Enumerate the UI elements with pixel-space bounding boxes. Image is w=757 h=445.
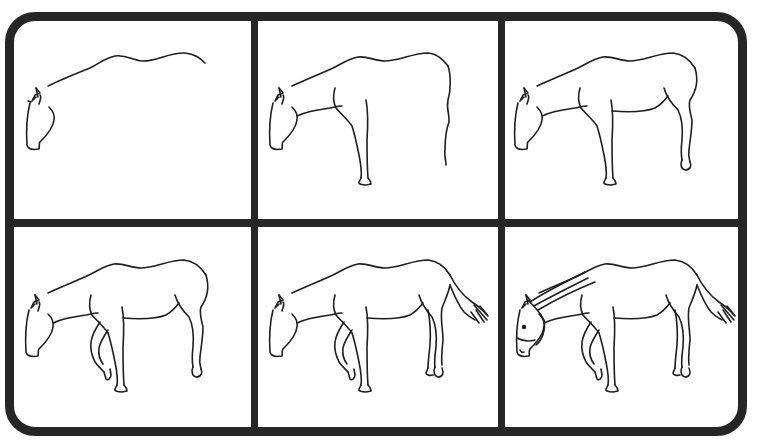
drawing-tutorial: Step 1 Step 2 <box>0 0 757 445</box>
panel-step-4: Step 4 <box>14 227 251 427</box>
horse-step-2-drawing <box>258 21 498 219</box>
panel-step-2: Step 2 <box>258 21 498 219</box>
horizontal-divider <box>14 219 738 227</box>
panel-step-1: Step 1 <box>14 21 251 219</box>
horse-step-5-drawing <box>258 227 498 427</box>
horse-step-1-drawing <box>14 21 251 219</box>
tutorial-frame: Step 1 Step 2 <box>5 12 747 436</box>
horse-step-6-drawing <box>505 227 743 427</box>
horse-step-3-drawing <box>505 21 743 219</box>
horse-step-4-drawing <box>14 227 251 427</box>
panel-step-6: Step 6 <box>505 227 743 427</box>
panel-step-3: Step 3 <box>505 21 743 219</box>
panel-step-5: Step 5 <box>258 227 498 427</box>
